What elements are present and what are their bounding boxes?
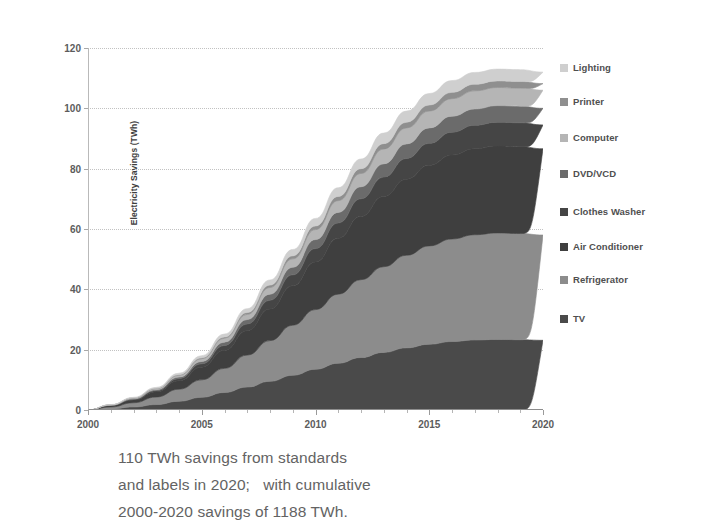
x-tick-mark-minor bbox=[270, 410, 271, 413]
caption-line-1: 110 TWh savings from standards bbox=[118, 444, 588, 471]
y-tick-label: 120 bbox=[64, 43, 81, 54]
x-tick-label: 2005 bbox=[191, 419, 213, 430]
legend-item-printer[interactable]: Printer bbox=[560, 96, 604, 108]
legend-item-air-conditioner[interactable]: Air Conditioner bbox=[560, 241, 643, 253]
legend-swatch-icon bbox=[560, 276, 568, 284]
x-tick-mark-minor bbox=[475, 410, 476, 413]
x-tick-mark-minor bbox=[407, 410, 408, 413]
figure: 120100806040200 20002005201020152020 Ele… bbox=[0, 0, 701, 532]
x-tick-mark-minor bbox=[134, 410, 135, 413]
legend-label: Refrigerator bbox=[573, 274, 628, 286]
plot-area: 120100806040200 20002005201020152020 Ele… bbox=[88, 48, 543, 410]
plot-frame bbox=[88, 48, 543, 410]
legend-item-lighting[interactable]: Lighting bbox=[560, 62, 611, 74]
x-tick-mark-minor bbox=[247, 410, 248, 413]
legend-item-tv[interactable]: TV bbox=[560, 313, 585, 325]
y-tick-label: 0 bbox=[75, 405, 81, 416]
y-tick-mark bbox=[84, 229, 88, 230]
x-tick-mark-minor bbox=[179, 410, 180, 413]
legend-item-dvd-vcd[interactable]: DVD/VCD bbox=[560, 168, 616, 180]
legend-label: Computer bbox=[573, 132, 618, 144]
x-tick-mark-minor bbox=[225, 410, 226, 413]
x-tick-label: 2010 bbox=[304, 419, 326, 430]
x-tick-label: 2020 bbox=[532, 419, 554, 430]
legend-label: Lighting bbox=[573, 62, 611, 74]
y-tick-label: 20 bbox=[70, 344, 81, 355]
y-tick-label: 100 bbox=[64, 103, 81, 114]
caption-line-3: 2000-2020 savings of 1188 TWh. bbox=[118, 498, 588, 525]
legend-swatch-icon bbox=[560, 64, 568, 72]
legend-label: Air Conditioner bbox=[573, 241, 643, 253]
x-tick-mark-minor bbox=[338, 410, 339, 413]
y-tick-label: 60 bbox=[70, 224, 81, 235]
x-tick-mark-minor bbox=[452, 410, 453, 413]
y-tick-mark bbox=[84, 350, 88, 351]
x-tick-mark-minor bbox=[384, 410, 385, 413]
y-tick-mark bbox=[84, 169, 88, 170]
x-tick-mark bbox=[429, 410, 430, 415]
legend-label: Clothes Washer bbox=[573, 206, 645, 218]
legend-label: DVD/VCD bbox=[573, 168, 616, 180]
y-tick-label: 40 bbox=[70, 284, 81, 295]
y-tick-mark bbox=[84, 108, 88, 109]
caption-line-2: and labels in 2020; with cumulative bbox=[118, 471, 588, 498]
x-tick-mark-minor bbox=[520, 410, 521, 413]
legend-item-refrigerator[interactable]: Refrigerator bbox=[560, 274, 628, 286]
legend-swatch-icon bbox=[560, 315, 568, 323]
y-axis-title: Electricity Savings (TWh) bbox=[129, 83, 139, 263]
legend-swatch-icon bbox=[560, 98, 568, 106]
x-tick-mark-minor bbox=[111, 410, 112, 413]
chart-caption: 110 TWh savings from standards and label… bbox=[118, 444, 588, 525]
x-tick-mark bbox=[543, 410, 544, 415]
legend-item-computer[interactable]: Computer bbox=[560, 132, 618, 144]
x-tick-mark-minor bbox=[156, 410, 157, 413]
y-tick-label: 80 bbox=[70, 163, 81, 174]
legend-swatch-icon bbox=[560, 243, 568, 251]
x-tick-mark-minor bbox=[498, 410, 499, 413]
legend-item-clothes-washer[interactable]: Clothes Washer bbox=[560, 206, 645, 218]
legend-swatch-icon bbox=[560, 170, 568, 178]
legend-swatch-icon bbox=[560, 134, 568, 142]
x-tick-mark-minor bbox=[361, 410, 362, 413]
x-tick-mark bbox=[316, 410, 317, 415]
x-tick-mark bbox=[202, 410, 203, 415]
y-tick-mark bbox=[84, 289, 88, 290]
x-tick-mark bbox=[88, 410, 89, 415]
legend-label: TV bbox=[573, 313, 585, 325]
y-tick-mark bbox=[84, 48, 88, 49]
x-tick-label: 2015 bbox=[418, 419, 440, 430]
x-tick-label: 2000 bbox=[77, 419, 99, 430]
legend-label: Printer bbox=[573, 96, 604, 108]
x-tick-mark-minor bbox=[293, 410, 294, 413]
legend-swatch-icon bbox=[560, 208, 568, 216]
